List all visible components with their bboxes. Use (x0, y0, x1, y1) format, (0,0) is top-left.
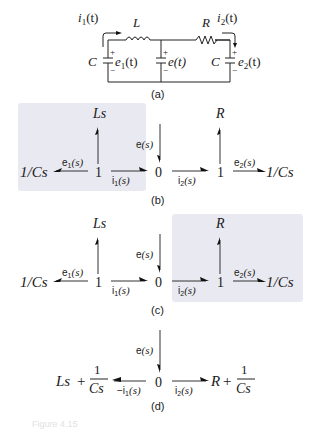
frac-den-left: Cs (89, 381, 104, 396)
label-neg-i1s: −i1(s) (117, 384, 141, 397)
label-et: e(t) (168, 54, 186, 69)
label-es: e(s) (136, 344, 154, 357)
label-i2t: i2(t) (217, 10, 237, 27)
label-e2s: e2(s) (234, 266, 255, 279)
label-i2s: i2(s) (178, 174, 196, 187)
current-arrow-i1-icon (116, 31, 122, 35)
half-arrow-right-icon (200, 167, 209, 171)
node-1-over-cs-right: 1/Cs (266, 274, 294, 290)
frac-den-right: Cs (236, 381, 251, 396)
expr-r: R (210, 373, 220, 389)
label-e1s: e1(s) (62, 266, 83, 279)
half-arrow-right-icon (139, 277, 148, 281)
label-resistor: R (201, 15, 210, 30)
svg-text:+: + (223, 373, 231, 389)
half-arrow-right-icon (200, 377, 209, 381)
node-1-over-cs-left: 1/Cs (20, 164, 48, 180)
bond-graph-b: 1/Cs e1(s) 1 Ls i1(s) e(s) 0 i2(s) 1 R e (18, 103, 294, 206)
resistor-icon (196, 36, 217, 44)
svg-text:−: − (232, 65, 237, 75)
bond-graph-figure: i1(t) L R i2(t) C + − e1(t) + − e(t) C +… (0, 0, 319, 429)
junction-0: 0 (155, 165, 162, 180)
label-es: e(s) (136, 248, 154, 261)
frac-num-left: 1 (94, 362, 101, 377)
label-cap-left: C (88, 54, 97, 69)
label-inductor: L (132, 15, 140, 30)
half-arrow-down-icon (157, 364, 160, 373)
node-r: R (215, 106, 225, 121)
frac-num-right: 1 (241, 362, 248, 377)
junction-0: 0 (155, 275, 162, 290)
node-1-over-cs-right: 1/Cs (266, 164, 294, 180)
circuit-schematic: i1(t) L R i2(t) C + − e1(t) + − e(t) C +… (78, 10, 261, 100)
label-a: (a) (151, 88, 164, 100)
node-ls: Ls (92, 106, 107, 121)
capacitor-left-icon (103, 58, 113, 63)
half-arrow-up-icon (217, 127, 220, 135)
node-r: R (215, 216, 225, 231)
label-e1t: e1(t) (115, 54, 138, 71)
label-b: (b) (151, 194, 164, 206)
label-i1s: i1(s) (112, 284, 130, 297)
label-i2s: i2(s) (175, 384, 193, 397)
label-e1s: e1(s) (62, 156, 83, 169)
junction-1-left: 1 (95, 165, 102, 180)
junction-1-left: 1 (95, 275, 102, 290)
svg-text:+: + (77, 373, 85, 389)
junction-0: 0 (155, 375, 162, 390)
capacitor-right-icon (225, 58, 235, 63)
half-arrow-down-icon (157, 265, 160, 273)
node-1-over-cs-left: 1/Cs (20, 274, 48, 290)
expr-ls: Ls (55, 373, 70, 389)
half-arrow-down-icon (157, 155, 160, 163)
junction-1-right: 1 (217, 165, 224, 180)
label-i1t: i1(t) (78, 10, 98, 27)
svg-text:+: + (232, 47, 237, 57)
half-arrow-right-icon (257, 168, 266, 172)
label-c: (c) (151, 304, 164, 316)
inductor-icon (126, 37, 150, 40)
figure-caption: Figure 4.15 (32, 419, 78, 429)
label-es: e(s) (136, 138, 154, 151)
label-e2t: e2(t) (238, 54, 261, 71)
label-e2s: e2(s) (234, 156, 255, 169)
bond-graph-d: Ls + 1 Cs −i1(s) e(s) 0 i2(s) R + 1 Cs (… (55, 330, 255, 412)
bond-graph-c: 1/Cs e1(s) 1 Ls i1(s) e(s) 0 i2(s) 1 R e… (20, 214, 303, 316)
junction-1-right: 1 (217, 275, 224, 290)
label-d: (d) (151, 400, 164, 412)
label-cap-right: C (211, 54, 220, 69)
half-arrow-up-icon (95, 237, 98, 245)
node-ls: Ls (92, 216, 107, 231)
source-icon (156, 58, 166, 63)
